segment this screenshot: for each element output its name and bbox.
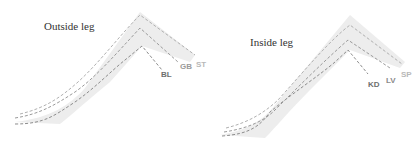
inside-leg-panel: Inside leg KD LV SP — [210, 0, 420, 145]
inside-leg-diagram — [210, 0, 420, 145]
label-sp: SP — [401, 70, 412, 79]
panel-title: Inside leg — [250, 36, 293, 48]
label-lv: LV — [386, 76, 396, 85]
outside-leg-diagram — [0, 0, 210, 145]
panel-title: Outside leg — [44, 20, 94, 32]
label-st: ST — [196, 60, 206, 69]
label-bl: BL — [161, 70, 172, 79]
label-gb: GB — [180, 62, 192, 71]
label-kd: KD — [368, 80, 380, 89]
outside-leg-panel: Outside leg BL GB ST — [0, 0, 210, 145]
